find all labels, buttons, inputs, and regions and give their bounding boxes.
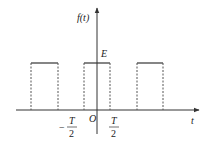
minus-sign: − [59,122,65,133]
pulse-1 [31,63,58,110]
origin-label: O [89,113,96,124]
tick-label-pos-half-period: T 2 [109,115,119,139]
denominator: 2 [111,128,116,139]
tick-label-neg-half-period: − T 2 [59,115,77,139]
denominator: 2 [69,128,74,139]
pulse-train-diagram: f(t) E O t − T 2 T 2 [0,0,211,146]
numerator: T [69,115,76,126]
y-axis-label: f(t) [77,12,90,24]
numerator: T [111,115,118,126]
pulse-3 [137,63,163,110]
x-axis-label: t [191,115,194,126]
amplitude-label: E [100,48,107,59]
